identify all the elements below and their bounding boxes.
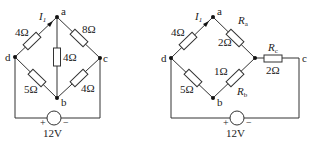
label-node-c: c <box>302 52 307 64</box>
label-node-b: b <box>61 96 67 108</box>
label-source-minus: − <box>246 117 252 128</box>
label-Ra-name: Ra <box>237 14 249 28</box>
voltage-source <box>47 111 61 125</box>
resistor-Rc <box>264 55 282 62</box>
node-b <box>55 96 59 100</box>
label-node-d: d <box>161 52 167 64</box>
label-source-voltage: 12V <box>43 127 62 139</box>
label-source-minus: − <box>63 117 69 128</box>
label-current: I1 <box>194 10 202 24</box>
label-source-voltage: 12V <box>226 127 245 139</box>
label-resistor-da: 4Ω <box>15 26 29 38</box>
label-node-a: a <box>61 5 66 17</box>
node-junction <box>253 56 257 60</box>
label-node-d: d <box>5 51 11 63</box>
node-c <box>98 56 102 60</box>
label-Rb-name: Rb <box>236 85 248 99</box>
label-resistor-db: 5Ω <box>24 83 38 95</box>
node-d <box>169 56 173 60</box>
label-resistor-da: 4Ω <box>171 26 185 38</box>
label-Rc-name: Rc <box>267 41 278 55</box>
left-circuit: a d c b I1 4Ω 8Ω 4Ω 5Ω 4Ω + − 12V <box>5 5 108 139</box>
label-node-a: a <box>217 5 222 17</box>
label-resistor-bc: 4Ω <box>81 82 95 94</box>
label-Ra-value: 2Ω <box>218 36 232 48</box>
label-Rb-value: 1Ω <box>214 65 228 77</box>
right-circuit: a d c b I1 4Ω Ra 2Ω 5Ω 1Ω Rb Rc 2Ω + − 1… <box>161 5 307 139</box>
voltage-source <box>230 111 244 125</box>
circuit-diagrams: a d c b I1 4Ω 8Ω 4Ω 5Ω 4Ω + − 12V <box>0 0 311 158</box>
node-b <box>211 96 215 100</box>
resistor-ab <box>54 48 61 66</box>
label-resistor-ab: 4Ω <box>63 51 77 63</box>
label-current: I1 <box>38 10 46 24</box>
node-a <box>211 15 215 19</box>
label-resistor-ac: 8Ω <box>82 23 96 35</box>
label-resistor-db: 5Ω <box>180 83 194 95</box>
label-node-b: b <box>217 96 223 108</box>
label-node-c: c <box>103 52 108 64</box>
label-Rc-value: 2Ω <box>266 64 280 76</box>
node-a <box>55 15 59 19</box>
node-d <box>13 55 17 59</box>
